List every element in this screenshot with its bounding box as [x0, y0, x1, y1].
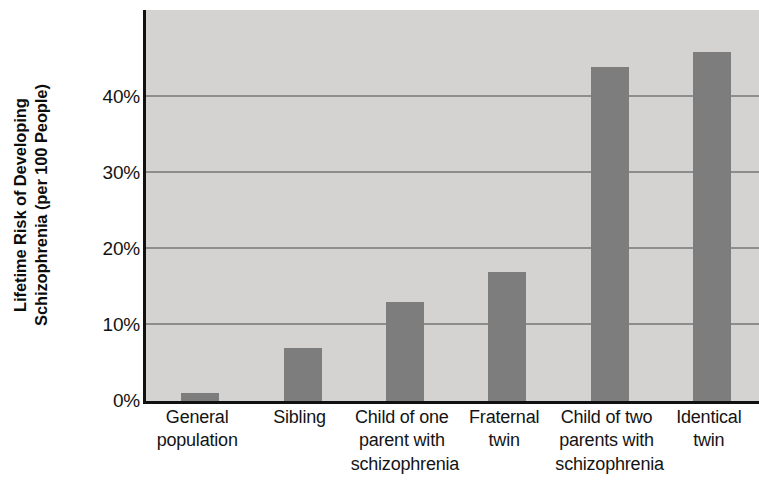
x-tick-label-line: schizophrenia	[555, 453, 657, 476]
y-tick-label-10: 10%	[68, 314, 140, 336]
y-tick-label-0: 0%	[68, 390, 140, 412]
bar-chart-figure: Lifetime Risk of Developing Schizophreni…	[0, 0, 759, 498]
x-tick-label-2: Child of oneparent withschizophrenia	[351, 406, 453, 476]
x-tick-label-line: Fraternal	[453, 406, 555, 429]
y-axis-title-line-2: Schizophrenia (per 100 People)	[31, 84, 52, 326]
bar-5	[693, 52, 731, 401]
plot-area	[143, 10, 759, 404]
bar-2	[386, 302, 424, 401]
gridline-20	[146, 247, 759, 249]
bar-3	[488, 272, 526, 401]
x-tick-label-line: parent with	[351, 429, 453, 452]
x-tick-label-line: population	[146, 429, 248, 452]
x-tick-label-0: Generalpopulation	[146, 406, 248, 453]
x-tick-label-line: Identical	[658, 406, 759, 429]
plot-inner	[146, 10, 759, 401]
x-tick-label-line: Sibling	[248, 406, 350, 429]
gridline-30	[146, 171, 759, 173]
x-tick-label-line: schizophrenia	[351, 453, 453, 476]
x-tick-label-4: Child of twoparents withschizophrenia	[555, 406, 657, 476]
x-tick-label-line: parents with	[555, 429, 657, 452]
x-tick-label-5: Identicaltwin	[658, 406, 759, 453]
y-tick-label-40: 40%	[68, 86, 140, 108]
x-tick-label-line: twin	[658, 429, 759, 452]
y-tick-label-30: 30%	[68, 162, 140, 184]
x-tick-label-3: Fraternaltwin	[453, 406, 555, 453]
x-tick-label-line: Child of one	[351, 406, 453, 429]
y-axis-title-line-1: Lifetime Risk of Developing	[10, 84, 31, 326]
x-tick-label-1: Sibling	[248, 406, 350, 429]
x-axis-tick-labels: GeneralpopulationSiblingChild of onepare…	[146, 406, 759, 498]
x-tick-label-line: twin	[453, 429, 555, 452]
x-tick-label-line: General	[146, 406, 248, 429]
y-axis-tick-labels: 0%10%20%30%40%	[64, 0, 140, 410]
bar-0	[181, 393, 219, 401]
y-tick-label-20: 20%	[68, 238, 140, 260]
y-axis-title: Lifetime Risk of Developing Schizophreni…	[0, 0, 62, 410]
bar-1	[284, 348, 322, 401]
bar-4	[591, 67, 629, 401]
x-tick-label-line: Child of two	[555, 406, 657, 429]
gridline-10	[146, 323, 759, 325]
gridline-40	[146, 95, 759, 97]
